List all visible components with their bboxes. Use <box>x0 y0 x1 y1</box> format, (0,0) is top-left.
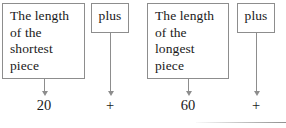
value-plus-second: + <box>236 96 276 114</box>
box-shortest-piece: The length of the shortest piece <box>2 3 85 79</box>
value-longest-piece: 60 <box>168 96 208 114</box>
value-plus-first: + <box>90 96 130 114</box>
value-shortest-piece: 20 <box>24 96 64 114</box>
arrow-down-icon-plus-first <box>110 33 111 92</box>
box-longest-piece-label: The length of the longest piece <box>155 8 226 74</box>
box-plus-first-label: plus <box>92 8 128 25</box>
bottom-divider <box>196 122 286 123</box>
box-longest-piece: The length of the longest piece <box>147 3 229 79</box>
diagram-canvas: The length of the shortest piece plus Th… <box>0 0 286 128</box>
box-plus-first: plus <box>91 3 129 33</box>
arrow-down-icon-shortest <box>44 79 45 92</box>
arrow-down-icon-plus-second <box>256 33 257 92</box>
box-plus-second-label: plus <box>238 8 274 25</box>
box-shortest-piece-label: The length of the shortest piece <box>10 8 82 74</box>
box-plus-second: plus <box>237 3 275 33</box>
arrow-down-icon-longest <box>188 79 189 92</box>
